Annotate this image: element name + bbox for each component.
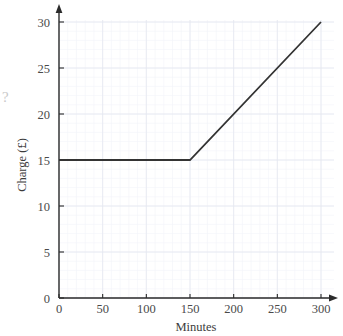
- y-tick-label: 10: [38, 200, 51, 214]
- cropped-glyph: ?: [2, 89, 9, 105]
- y-axis-arrowhead: [56, 4, 63, 13]
- line-chart: 050100150200250300 051015202530 Minutes …: [0, 0, 343, 336]
- plot-background: [59, 20, 334, 298]
- y-axis-tick-labels: 051015202530: [38, 16, 51, 306]
- y-tick-label: 20: [38, 108, 51, 122]
- x-tick-label: 0: [56, 302, 62, 316]
- x-axis-title: Minutes: [176, 320, 217, 334]
- y-tick-label: 0: [44, 292, 50, 306]
- y-tick-label: 15: [38, 154, 51, 168]
- y-tick-label: 30: [38, 16, 51, 30]
- x-axis-tick-labels: 050100150200250300: [56, 302, 331, 316]
- y-axis-title: Charge (£): [15, 138, 29, 192]
- chart-container: 050100150200250300 051015202530 Minutes …: [0, 0, 343, 336]
- y-tick-label: 5: [44, 246, 50, 260]
- x-tick-label: 100: [137, 302, 156, 316]
- x-tick-label: 250: [268, 302, 287, 316]
- y-tick-label: 25: [38, 62, 51, 76]
- x-tick-label: 150: [181, 302, 200, 316]
- x-tick-label: 300: [312, 302, 331, 316]
- x-tick-label: 50: [96, 302, 109, 316]
- x-tick-label: 200: [224, 302, 243, 316]
